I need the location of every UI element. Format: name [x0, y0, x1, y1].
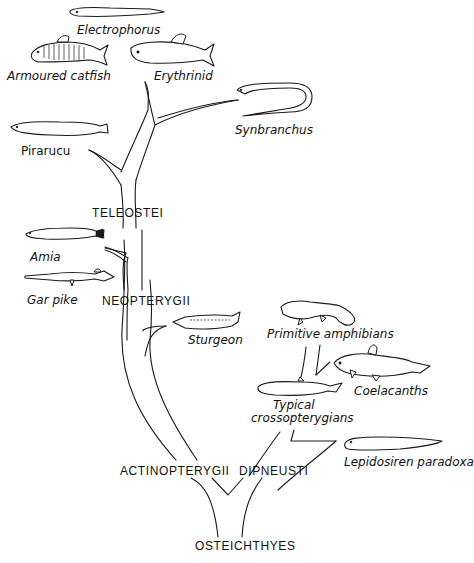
label-lepidosiren-paradoxa: Lepidosiren paradoxa	[344, 455, 474, 469]
label-neopterygii: NEOPTERYGII	[102, 294, 190, 308]
label-erythrinid: Erythrinid	[154, 69, 213, 83]
electrophorus-illustration	[70, 7, 164, 16]
label-teleostei: TELEOSTEI	[92, 206, 163, 220]
sturgeon-illustration	[173, 312, 240, 329]
label-pirarucu: Pirarucu	[21, 144, 70, 158]
label-coelacanths: Coelacanths	[354, 384, 428, 398]
label-typical-crossopterygians-line1: Typical	[273, 398, 315, 412]
amia-illustration	[26, 228, 104, 239]
typical-crossopterygian-illustration	[258, 377, 342, 395]
osteichthyes-trunk	[191, 478, 262, 537]
label-amia: Amia	[30, 250, 61, 264]
label-gar-pike: Gar pike	[27, 293, 78, 307]
sturgeon-branch	[143, 326, 166, 356]
label-sturgeon: Sturgeon	[188, 333, 243, 347]
label-actinopterygii: ACTINOPTERYGII	[120, 464, 230, 478]
label-armoured-catfish: Armoured catfish	[7, 69, 111, 83]
actinopterygii-branch	[122, 240, 197, 460]
label-dipneusti: DIPNEUSTI	[239, 464, 308, 478]
pirarucu-illustration	[11, 122, 108, 136]
lepidosiren-illustration	[345, 437, 442, 450]
neopterygii-branch	[105, 230, 142, 340]
label-typical-crossopterygians-line2: crossopterygians	[251, 411, 354, 425]
label-electrophorus: Electrophorus	[77, 23, 160, 37]
crossopterygian-branch	[301, 345, 330, 377]
label-synbranchus: Synbranchus	[235, 123, 313, 137]
label-osteichthyes: OSTEICHTHYES	[195, 539, 296, 553]
dipneusti-branch	[249, 430, 336, 490]
upper-teleost-branch	[121, 82, 238, 180]
coelacanth-illustration	[334, 345, 430, 381]
label-primitive-amphibians: Primitive amphibians	[267, 327, 394, 341]
synbranchus-illustration	[237, 83, 312, 116]
gar-pike-illustration	[25, 269, 114, 286]
primitive-amphibian-illustration	[281, 301, 355, 325]
armoured-catfish-illustration	[31, 36, 108, 65]
erythrinid-illustration	[131, 34, 214, 66]
